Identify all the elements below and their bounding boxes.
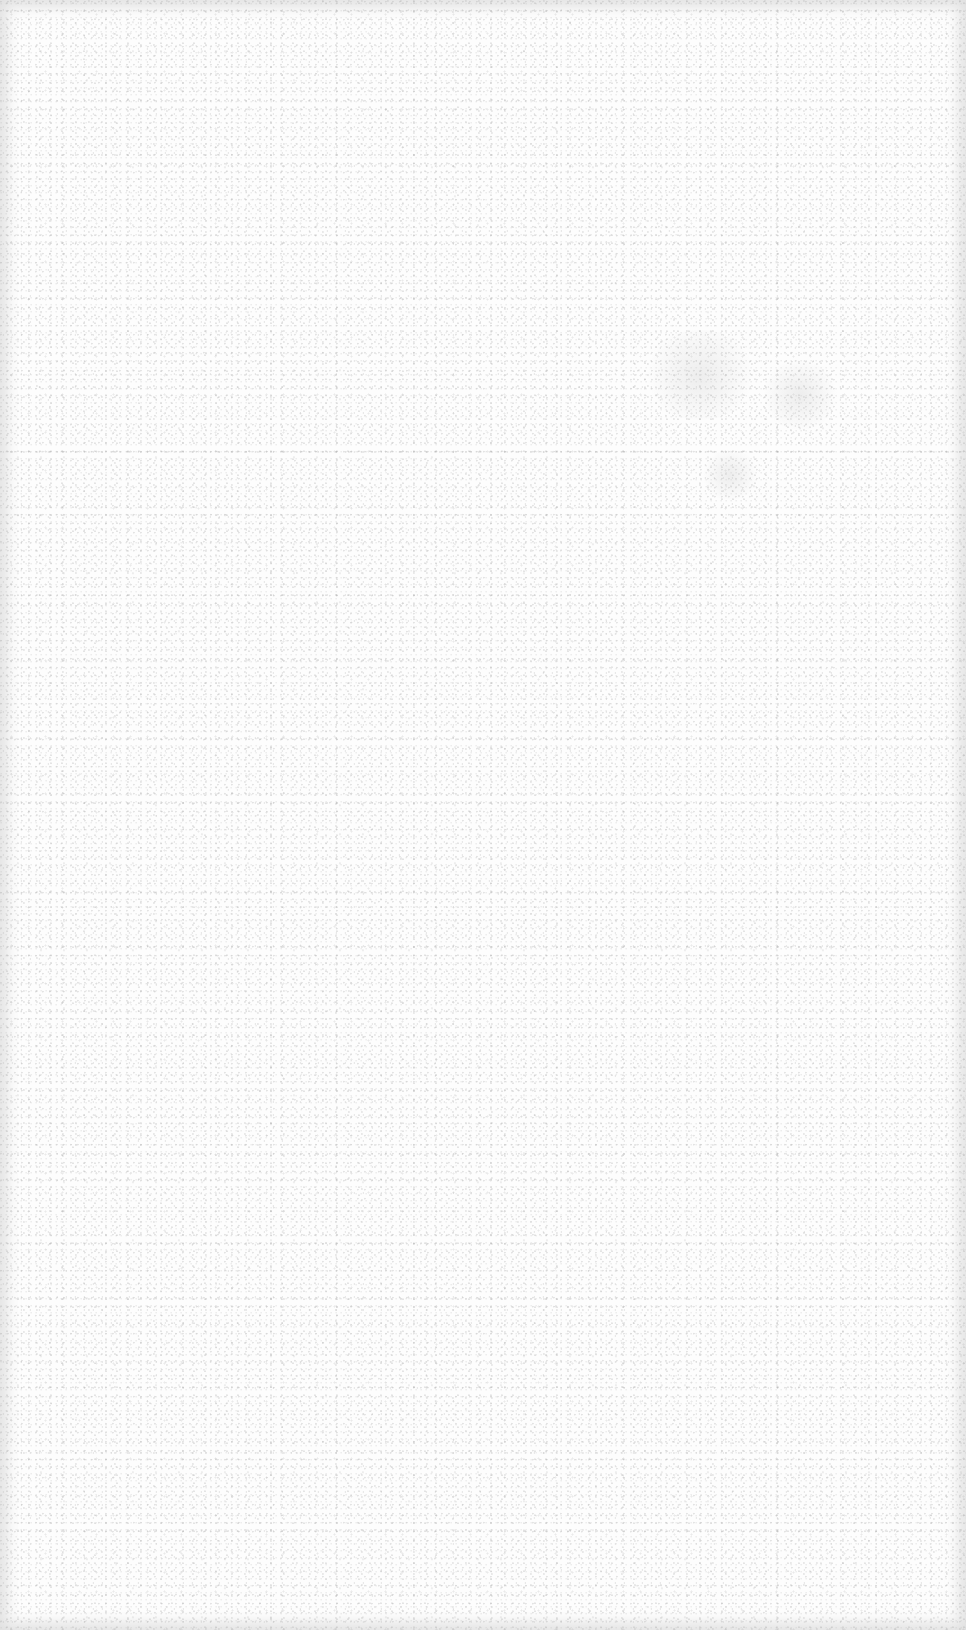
- paper-smudge: [640, 330, 760, 420]
- paper-smudge: [700, 450, 760, 500]
- paper-texture-speckle: [0, 0, 966, 1630]
- paper-smudge: [760, 360, 840, 430]
- blank-page: [0, 0, 966, 1630]
